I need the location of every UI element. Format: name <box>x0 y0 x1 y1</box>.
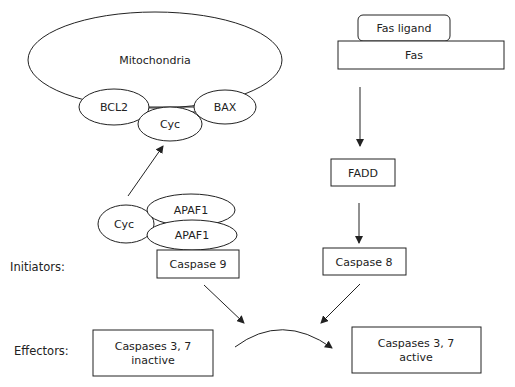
svg-text:Cyc: Cyc <box>160 118 180 131</box>
mitochondria-label: Mitochondria <box>119 54 191 67</box>
cyc-mito-node: Cyc <box>138 107 202 141</box>
activation-arc-arrow <box>235 330 332 348</box>
svg-text:APAF1: APAF1 <box>175 229 209 242</box>
svg-text:APAF1: APAF1 <box>174 204 208 217</box>
svg-text:Fas: Fas <box>405 49 423 62</box>
arrow-caspase8-to-activation <box>321 284 360 323</box>
arrow-caspase9-to-activation <box>204 285 244 323</box>
caspase8-node: Caspase 8 <box>323 248 406 275</box>
svg-text:Caspase 9: Caspase 9 <box>170 258 227 271</box>
bax-node: BAX <box>194 90 256 124</box>
effectors-label: Effectors: <box>14 344 69 358</box>
svg-text:Caspases 3, 7: Caspases 3, 7 <box>115 340 192 353</box>
arrow-cyc-to-mitochondria <box>128 146 163 196</box>
apoptosis-diagram: Mitochondria BCL2 BAX Cyc Cyc APAF1 APAF… <box>0 0 515 387</box>
svg-text:FADD: FADD <box>348 167 378 180</box>
svg-text:Cyc: Cyc <box>114 218 134 231</box>
svg-text:Caspases 3, 7: Caspases 3, 7 <box>378 337 455 350</box>
svg-text:inactive: inactive <box>131 354 175 367</box>
caspases-active-node: Caspases 3, 7 active <box>352 327 481 373</box>
fadd-node: FADD <box>331 159 395 186</box>
fas-ligand-node: Fas ligand <box>358 15 450 41</box>
apaf1-bottom-node: APAF1 <box>147 220 237 250</box>
svg-text:Caspase 8: Caspase 8 <box>336 256 393 269</box>
fas-node: Fas <box>338 41 504 69</box>
caspase9-node: Caspase 9 <box>157 250 239 278</box>
caspases-inactive-node: Caspases 3, 7 inactive <box>93 330 213 376</box>
cyc-apaf-node: Cyc <box>98 205 154 243</box>
svg-text:active: active <box>399 351 433 364</box>
svg-text:BCL2: BCL2 <box>100 101 128 114</box>
svg-text:Fas ligand: Fas ligand <box>376 22 431 35</box>
initiators-label: Initiators: <box>10 260 65 274</box>
svg-text:BAX: BAX <box>214 101 237 114</box>
